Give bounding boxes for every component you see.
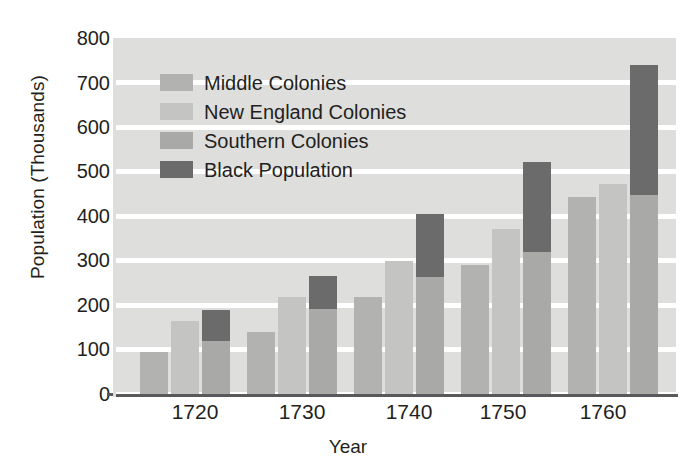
legend-swatch-icon — [160, 132, 193, 149]
bar-segment-black-population — [416, 214, 444, 278]
legend-swatch-icon — [160, 161, 193, 178]
bar-middle-colonies — [354, 297, 382, 394]
bar-new-england-colonies — [385, 261, 413, 395]
y-tick-label: 0 — [56, 384, 110, 404]
bar-southern-colonies-stacked — [202, 310, 230, 394]
y-tick-label: 600 — [56, 117, 110, 137]
bar-segment-black-population — [523, 162, 551, 253]
x-tick-label: 1760 — [551, 400, 655, 424]
y-tick-label: 700 — [56, 73, 110, 93]
bar-new-england-colonies — [171, 321, 199, 394]
y-tick-label: 800 — [56, 28, 110, 48]
bar-middle-colonies — [247, 332, 275, 394]
legend-item: New England Colonies — [160, 97, 406, 126]
bar-segment-black-population — [309, 276, 337, 309]
y-tick-label: 100 — [56, 339, 110, 359]
x-axis-title: Year — [0, 436, 696, 458]
legend-item-label: Middle Colonies — [204, 73, 346, 93]
legend: Middle Colonies New England Colonies Sou… — [160, 68, 406, 184]
bar-middle-colonies — [140, 352, 168, 394]
legend-item: Black Population — [160, 155, 406, 184]
bar-southern-colonies-stacked — [630, 65, 658, 394]
x-tick-label: 1720 — [143, 400, 247, 424]
bar-new-england-colonies — [599, 184, 627, 394]
legend-swatch-icon — [160, 74, 193, 91]
bar-chart: Population (Thousands) 800 700 600 500 4… — [0, 0, 696, 462]
bar-segment-black-population — [202, 310, 230, 340]
bar-southern-colonies-stacked — [309, 276, 337, 394]
x-axis-line — [116, 394, 678, 397]
y-axis-title: Population (Thousands) — [27, 17, 49, 337]
y-tick-label: 200 — [56, 295, 110, 315]
bar-new-england-colonies — [278, 297, 306, 394]
bar-southern-colonies-stacked — [523, 162, 551, 394]
bar-middle-colonies — [461, 265, 489, 394]
bar-segment-black-population — [630, 65, 658, 195]
legend-item-label: Black Population — [204, 160, 353, 180]
y-tick-label: 400 — [56, 206, 110, 226]
x-tick-label: 1740 — [357, 400, 461, 424]
y-axis-tick-labels: 800 700 600 500 400 300 200 100 0 — [52, 0, 110, 462]
legend-item-label: Southern Colonies — [204, 131, 369, 151]
y-axis-line — [113, 38, 116, 397]
bar-southern-colonies-stacked — [416, 214, 444, 394]
y-tick-label: 300 — [56, 250, 110, 270]
legend-item-label: New England Colonies — [204, 102, 406, 122]
y-tick-label: 500 — [56, 161, 110, 181]
legend-swatch-icon — [160, 103, 193, 120]
bar-new-england-colonies — [492, 229, 520, 394]
x-tick-label: 1750 — [451, 400, 555, 424]
legend-item: Southern Colonies — [160, 126, 406, 155]
legend-item: Middle Colonies — [160, 68, 406, 97]
x-tick-label: 1730 — [250, 400, 354, 424]
bar-middle-colonies — [568, 197, 596, 394]
